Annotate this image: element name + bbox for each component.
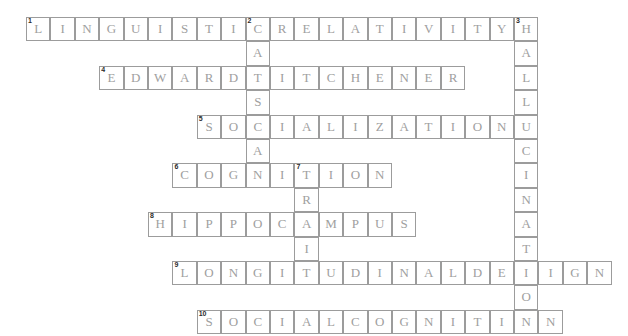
crossword-cell[interactable]: 9L [172,261,196,285]
crossword-cell[interactable]: A [246,41,270,65]
crossword-cell[interactable]: T [197,17,221,41]
crossword-cell[interactable]: N [221,261,245,285]
crossword-cell[interactable]: N [246,163,270,187]
crossword-cell[interactable]: T [514,237,538,261]
crossword-cell[interactable]: R [441,66,465,90]
crossword-cell[interactable]: N [587,261,611,285]
crossword-cell[interactable]: E [294,17,318,41]
crossword-cell[interactable]: I [514,163,538,187]
crossword-cell[interactable]: 8H [148,212,172,236]
crossword-cell[interactable]: U [124,17,148,41]
crossword-cell[interactable]: O [343,163,367,187]
crossword-cell[interactable]: C [319,66,343,90]
crossword-cell[interactable]: N [490,115,514,139]
crossword-cell[interactable]: A [343,17,367,41]
crossword-cell[interactable]: I [270,261,294,285]
crossword-cell[interactable]: I [270,310,294,334]
crossword-cell[interactable]: M [319,212,343,236]
crossword-cell[interactable]: T [465,17,489,41]
crossword-cell[interactable]: 5S [197,115,221,139]
crossword-cell[interactable]: L [514,90,538,114]
crossword-cell[interactable]: N [392,261,416,285]
crossword-cell[interactable]: T [294,261,318,285]
crossword-cell[interactable]: C [270,212,294,236]
crossword-cell[interactable]: L [514,66,538,90]
crossword-cell[interactable]: I [148,17,172,41]
crossword-cell[interactable]: N [392,66,416,90]
crossword-cell[interactable]: G [221,163,245,187]
crossword-cell[interactable]: L [319,17,343,41]
crossword-cell[interactable]: R [197,66,221,90]
crossword-cell[interactable]: P [197,212,221,236]
crossword-cell[interactable]: N [75,17,99,41]
crossword-cell[interactable]: I [441,17,465,41]
crossword-cell[interactable]: G [246,261,270,285]
crossword-cell[interactable]: N [368,163,392,187]
crossword-cell[interactable]: G [99,17,123,41]
crossword-cell[interactable]: W [148,66,172,90]
crossword-cell[interactable]: A [392,115,416,139]
crossword-cell[interactable]: G [392,310,416,334]
crossword-cell[interactable]: R [294,188,318,212]
crossword-cell[interactable]: I [294,237,318,261]
crossword-cell[interactable]: 6C [172,163,196,187]
crossword-cell[interactable]: A [294,212,318,236]
crossword-cell[interactable]: I [441,115,465,139]
crossword-cell[interactable]: T [294,66,318,90]
crossword-cell[interactable]: I [514,261,538,285]
crossword-cell[interactable]: O [221,310,245,334]
crossword-cell[interactable]: 2C [246,17,270,41]
crossword-cell[interactable]: T [368,17,392,41]
crossword-cell[interactable]: C [246,310,270,334]
crossword-cell[interactable]: N [416,310,440,334]
crossword-cell[interactable]: Z [368,115,392,139]
crossword-cell[interactable]: S [392,212,416,236]
crossword-cell[interactable]: L [319,115,343,139]
crossword-cell[interactable]: U [514,115,538,139]
crossword-cell[interactable]: U [319,261,343,285]
crossword-cell[interactable]: O [246,212,270,236]
crossword-cell[interactable]: 3H [514,17,538,41]
crossword-cell[interactable]: A [416,261,440,285]
crossword-cell[interactable]: 10S [197,310,221,334]
crossword-cell[interactable]: C [343,310,367,334]
crossword-cell[interactable]: E [490,261,514,285]
crossword-cell[interactable]: A [294,115,318,139]
crossword-cell[interactable]: O [368,310,392,334]
crossword-cell[interactable]: I [221,17,245,41]
crossword-cell[interactable]: L [319,310,343,334]
crossword-cell[interactable]: A [294,310,318,334]
crossword-cell[interactable]: S [172,17,196,41]
crossword-cell[interactable]: I [172,212,196,236]
crossword-cell[interactable]: A [172,66,196,90]
crossword-cell[interactable]: O [465,115,489,139]
crossword-cell[interactable]: T [246,66,270,90]
crossword-cell[interactable]: A [246,139,270,163]
crossword-cell[interactable]: O [221,115,245,139]
crossword-cell[interactable]: S [246,90,270,114]
crossword-cell[interactable]: O [197,261,221,285]
crossword-cell[interactable]: R [270,17,294,41]
crossword-cell[interactable]: I [270,115,294,139]
crossword-cell[interactable]: V [416,17,440,41]
crossword-cell[interactable]: I [392,17,416,41]
crossword-cell[interactable]: T [416,115,440,139]
crossword-cell[interactable]: O [514,285,538,309]
crossword-cell[interactable]: I [270,66,294,90]
crossword-cell[interactable]: P [343,212,367,236]
crossword-cell[interactable]: A [514,212,538,236]
crossword-cell[interactable]: I [343,115,367,139]
crossword-cell[interactable]: O [197,163,221,187]
crossword-cell[interactable]: I [490,310,514,334]
crossword-cell[interactable]: 7T [294,163,318,187]
crossword-cell[interactable]: D [465,261,489,285]
crossword-cell[interactable]: I [270,163,294,187]
crossword-cell[interactable]: E [368,66,392,90]
crossword-cell[interactable]: I [368,261,392,285]
crossword-cell[interactable]: L [441,261,465,285]
crossword-cell[interactable]: I [441,310,465,334]
crossword-cell[interactable]: D [124,66,148,90]
crossword-cell[interactable]: I [538,261,562,285]
crossword-cell[interactable]: T [465,310,489,334]
crossword-cell[interactable]: D [221,66,245,90]
